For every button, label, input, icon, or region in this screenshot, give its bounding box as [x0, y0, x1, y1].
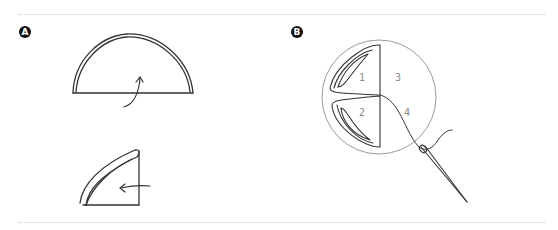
- folded-petals: [330, 45, 380, 147]
- section-4-label: 4: [404, 107, 410, 118]
- needle-icon: [418, 144, 467, 202]
- guide-circle: [322, 40, 436, 154]
- fold-left-arrow-icon: [120, 184, 150, 192]
- diagram-canvas: 1 2 3 4: [0, 0, 558, 230]
- section-2-label: 2: [359, 107, 365, 118]
- section-1-label: 1: [359, 72, 365, 83]
- half-circle-shape: [73, 34, 193, 93]
- quarter-fold-shape: [80, 150, 139, 205]
- fold-up-arrow-icon: [124, 77, 143, 107]
- thread: [380, 95, 452, 149]
- section-3-label: 3: [395, 72, 401, 83]
